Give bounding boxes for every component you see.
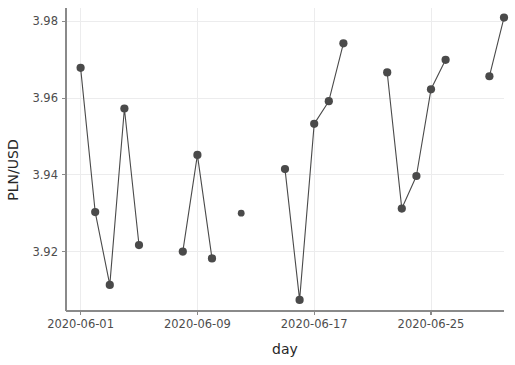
data-point [193,151,201,159]
data-point [77,64,85,72]
y-tick-label: 3.94 [32,168,58,182]
x-tick-label: 2020-06-17 [281,317,348,331]
x-tick-label: 2020-06-25 [398,317,465,331]
y-tick-label: 3.92 [32,245,58,259]
x-tick-label: 2020-06-01 [47,317,114,331]
data-point [485,72,493,80]
data-point [208,254,216,262]
y-axis-title: PLN/USD [5,139,21,200]
y-tick-label: 3.96 [32,91,58,105]
x-tick-label: 2020-06-09 [164,317,231,331]
x-axis-title: day [272,341,298,357]
data-point [383,68,391,76]
data-point [120,104,128,112]
data-point [179,247,187,255]
data-point [281,165,289,173]
data-point [91,208,99,216]
y-tick-label: 3.98 [32,14,58,28]
data-point [398,204,406,212]
data-point [296,296,304,304]
data-point [238,210,245,217]
data-point [427,85,435,93]
data-point [339,39,347,47]
data-point [325,97,333,105]
chart-figure: 3.983.963.943.92 2020-06-012020-06-09202… [0,0,515,365]
data-point [106,281,114,289]
data-point [412,172,420,180]
figure-background [0,0,515,365]
line-chart: 3.983.963.943.92 2020-06-012020-06-09202… [0,0,515,365]
data-point [500,13,508,21]
data-point [310,120,318,128]
data-point [135,241,143,249]
data-point [442,56,450,64]
